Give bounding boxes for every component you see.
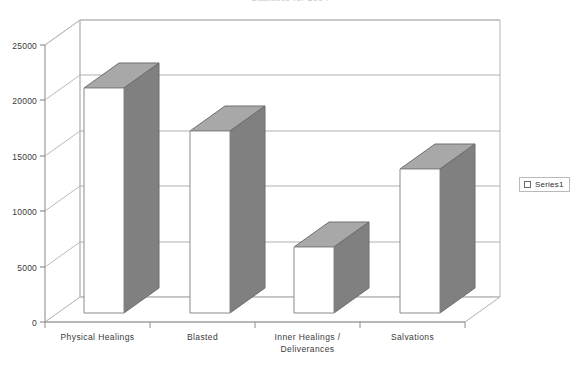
- y-tick-label-10000: 10000: [0, 207, 37, 217]
- bar-salvations: [400, 144, 475, 313]
- x-category-label-physical-healings: Physical Healings: [45, 331, 150, 343]
- y-axis-ticks: [40, 45, 45, 322]
- x-category-label-salvations: Salvations: [360, 331, 465, 343]
- y-tick-label-0: 0: [0, 318, 37, 328]
- plot-left-wall: [45, 20, 80, 322]
- chart-legend[interactable]: Series1: [519, 177, 570, 192]
- chart-plot-svg: [0, 0, 580, 372]
- legend-swatch-icon: [524, 181, 531, 188]
- y-tick-label-25000: 25000: [0, 41, 37, 51]
- y-tick-label-5000: 5000: [0, 263, 37, 273]
- y-tick-label-15000: 15000: [0, 152, 37, 162]
- bar-physical-healings: [84, 63, 159, 313]
- x-axis: [45, 322, 465, 328]
- bar-blasted: [190, 106, 265, 313]
- y-tick-label-20000: 20000: [0, 96, 37, 106]
- x-category-label-blasted: Blasted: [150, 331, 255, 343]
- x-category-label-inner-healings-deliverances: Inner Healings / Deliverances: [255, 331, 360, 355]
- legend-entry-series1: Series1: [535, 180, 564, 189]
- chart-container: Statistics for 2004: [0, 0, 580, 372]
